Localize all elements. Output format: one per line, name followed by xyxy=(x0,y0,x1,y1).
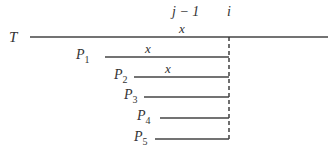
column-label-i: i xyxy=(227,4,231,19)
pattern-label-1: P1 xyxy=(75,47,90,65)
text-label: T xyxy=(9,29,19,45)
column-label-j-minus-1: j − 1 xyxy=(170,4,199,19)
pattern-label-2: P2 xyxy=(113,67,128,85)
pattern-mark-x-2: x xyxy=(164,61,171,76)
text-mark-x: x xyxy=(178,21,185,36)
pattern-mark-x-1: x xyxy=(144,41,151,56)
pattern-label-3: P3 xyxy=(123,87,138,105)
pattern-label-5: P5 xyxy=(133,129,148,147)
patterns-group: P1xP2xP3P4P5 xyxy=(75,41,229,147)
pattern-label-4: P4 xyxy=(136,108,151,126)
shift-diagram: T x j − 1 i P1xP2xP3P4P5 xyxy=(0,0,334,153)
